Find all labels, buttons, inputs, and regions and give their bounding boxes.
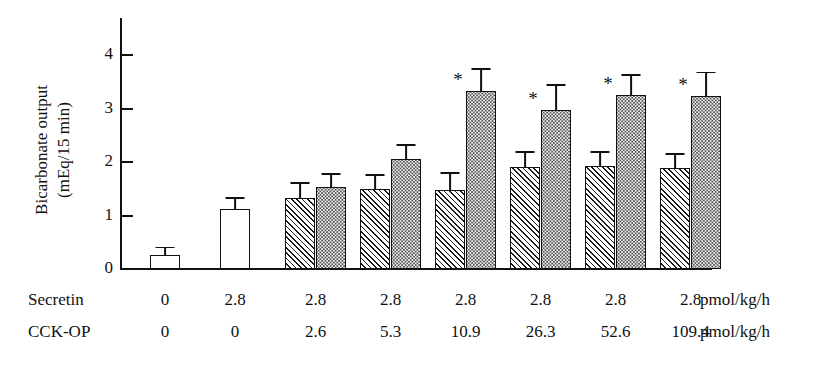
- error-bar-cap: [622, 74, 641, 76]
- bar-after-3: [316, 187, 346, 269]
- y-tick-3: 3: [122, 108, 133, 110]
- bar-before-5: [435, 190, 465, 269]
- condition-row-label-secretin: Secretin: [28, 291, 84, 308]
- error-bar-cap: [441, 172, 460, 174]
- condition-cell: 2.8: [380, 291, 401, 308]
- bar-after-5: [466, 91, 496, 269]
- error-bar-cap: [666, 153, 685, 155]
- y-tick-label: 2: [105, 152, 114, 169]
- error-bar-cap: [397, 144, 416, 146]
- y-tick-label: 0: [105, 259, 114, 276]
- bar-control-1: [150, 255, 180, 269]
- error-bar: [630, 74, 632, 95]
- error-bar: [330, 173, 332, 187]
- error-bar-cap: [472, 68, 491, 70]
- y-axis-title: Bicarbonate output (mEq/15 min): [10, 30, 96, 270]
- y-tick-1: 1: [122, 215, 133, 217]
- bar-before-3: [285, 198, 315, 269]
- bar-after-8: [691, 96, 721, 269]
- bar-before-8: [660, 168, 690, 269]
- condition-cell: 26.3: [526, 323, 556, 340]
- condition-cell: 10.9: [451, 323, 481, 340]
- error-bar-cap: [697, 72, 716, 74]
- condition-cell: 2.6: [305, 323, 326, 340]
- y-tick-label: 3: [105, 99, 114, 116]
- bar-control-2: [220, 209, 250, 269]
- condition-cell: 2.8: [605, 291, 626, 308]
- error-bar: [524, 151, 526, 167]
- figure-panel: Bicarbonate output (mEq/15 min) 01234 **…: [0, 0, 832, 375]
- condition-cell: 2.8: [530, 291, 551, 308]
- condition-cell: 0: [231, 323, 240, 340]
- error-bar: [374, 174, 376, 188]
- y-tick-0: 0: [122, 268, 133, 270]
- condition-row-label-cck-op: CCK-OP: [28, 323, 90, 340]
- bar-after-7: [616, 95, 646, 269]
- error-bar-cap: [291, 182, 310, 184]
- condition-cell: 0: [161, 291, 170, 308]
- plot-area: 01234 ****: [120, 18, 712, 270]
- condition-cell: 2.8: [305, 291, 326, 308]
- error-bar-cap: [547, 84, 566, 86]
- y-tick-4: 4: [122, 54, 133, 56]
- bar-before-6: [510, 167, 540, 269]
- condition-cell: 0: [161, 323, 170, 340]
- significance-asterisk: *: [528, 88, 538, 107]
- error-bar-cap: [516, 151, 535, 153]
- y-axis-title-line2: (mEq/15 min): [53, 85, 75, 215]
- condition-cell: 5.3: [380, 323, 401, 340]
- significance-asterisk: *: [453, 69, 463, 88]
- bar-after-6: [541, 110, 571, 269]
- error-bar: [674, 153, 676, 168]
- condition-row-unit: pmol/kg/h: [700, 323, 770, 340]
- conditions-table: Secretin02.82.82.82.82.82.82.8pmol/kg/hC…: [0, 283, 832, 363]
- error-bar: [299, 182, 301, 198]
- error-bar: [555, 84, 557, 110]
- error-bar: [599, 151, 601, 165]
- y-tick-2: 2: [122, 161, 133, 163]
- error-bar-cap: [156, 247, 175, 249]
- error-bar: [449, 172, 451, 190]
- error-bar-cap: [366, 174, 385, 176]
- condition-row-unit: pmol/kg/h: [700, 291, 770, 308]
- condition-cell: 2.8: [224, 291, 245, 308]
- condition-cell: 2.8: [455, 291, 476, 308]
- condition-cell: 52.6: [601, 323, 631, 340]
- significance-asterisk: *: [678, 74, 688, 93]
- y-tick-label: 4: [105, 45, 114, 62]
- error-bar: [705, 72, 707, 96]
- error-bar-cap: [591, 151, 610, 153]
- y-axis-title-line1: Bicarbonate output: [32, 85, 51, 215]
- error-bar-cap: [322, 173, 341, 175]
- error-bar: [405, 144, 407, 159]
- bar-before-7: [585, 166, 615, 269]
- bar-after-4: [391, 159, 421, 269]
- condition-cell: 2.8: [680, 291, 701, 308]
- bar-before-4: [360, 189, 390, 269]
- significance-asterisk: *: [603, 74, 613, 93]
- y-tick-label: 1: [105, 206, 114, 223]
- error-bar: [480, 68, 482, 90]
- error-bar-cap: [226, 197, 245, 199]
